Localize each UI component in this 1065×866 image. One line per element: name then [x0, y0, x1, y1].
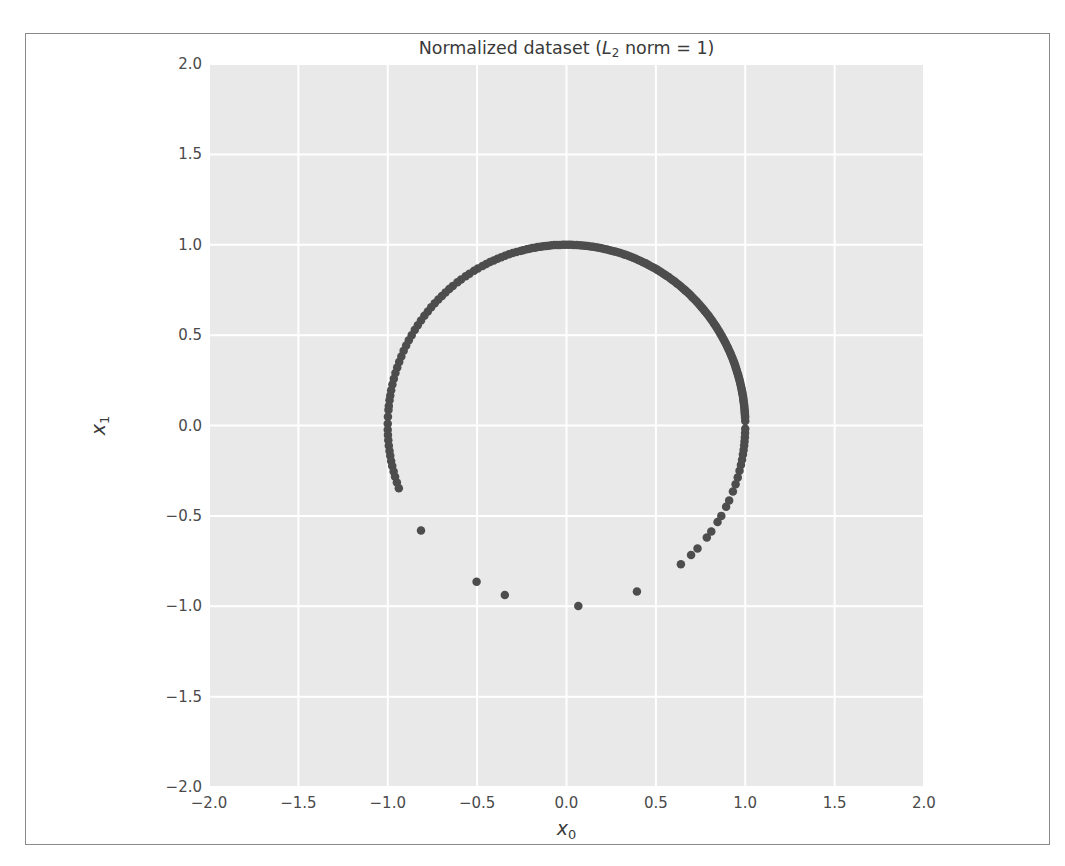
y-tick-label: −1.0: [140, 597, 202, 615]
x-tick-label: 0.5: [616, 794, 696, 812]
x-tick-label: 2.0: [884, 794, 964, 812]
y-tick-label: 0.0: [140, 417, 202, 435]
y-tick-label: −1.5: [140, 688, 202, 706]
x-axis-label: x0: [209, 817, 924, 842]
x-tick-label: −0.5: [437, 794, 517, 812]
y-axis-tick-labels: 2.01.51.00.50.0−0.5−1.0−1.5−2.0: [134, 64, 202, 787]
x-axis-tick-labels: −2.0−1.5−1.0−0.50.00.51.01.52.0: [209, 794, 924, 818]
x-tick-label: 1.5: [795, 794, 875, 812]
y-tick-label: 1.5: [140, 145, 202, 163]
x-tick-label: −1.0: [348, 794, 428, 812]
x-tick-label: −2.0: [169, 794, 249, 812]
y-axis-label: x1: [78, 64, 118, 787]
y-tick-label: 0.5: [140, 326, 202, 344]
x-tick-label: 1.0: [705, 794, 785, 812]
figure-frame: Normalized dataset (L2 norm = 1) 2.01.51…: [25, 33, 1050, 845]
x-tick-label: −1.5: [258, 794, 338, 812]
y-tick-label: 1.0: [140, 236, 202, 254]
x-tick-label: 0.0: [527, 794, 607, 812]
scatter-points: [209, 64, 924, 787]
plot-area: [209, 64, 924, 787]
chart-title: Normalized dataset (L2 norm = 1): [209, 34, 924, 64]
y-tick-label: −0.5: [140, 507, 202, 525]
y-tick-label: 2.0: [140, 55, 202, 73]
